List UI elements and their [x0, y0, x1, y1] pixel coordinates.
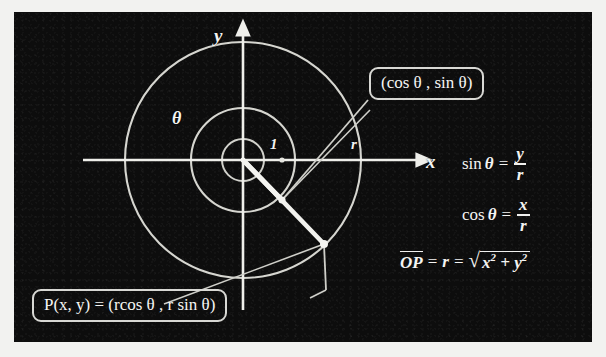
y-axis-label: y: [214, 26, 222, 45]
equation-sine-definition: sin θ = y r: [462, 145, 527, 184]
radicand-y: y: [514, 253, 522, 272]
unit-tick-dot: [279, 157, 284, 162]
square-root-expression: √ x2 + y2: [468, 251, 530, 273]
radicand: x2 + y2: [480, 251, 530, 273]
radicand-y-exponent: 2: [522, 251, 527, 263]
sine-fraction: y r: [513, 145, 527, 184]
radicand-plus-sign: +: [500, 253, 510, 272]
cosine-function-name: cos: [462, 205, 485, 225]
segment-op-label: OP: [400, 251, 423, 273]
radicand-x: x: [482, 253, 491, 272]
callout-unit-circle-point[interactable]: (cos θ , sin θ): [369, 67, 484, 100]
cosine-theta-symbol: θ: [485, 205, 497, 225]
sine-equals-sign: =: [494, 154, 514, 174]
leader-line-point-p: [324, 244, 326, 290]
cosine-denominator: r: [517, 214, 530, 234]
radius-equals-sign-2: =: [449, 252, 469, 272]
radius-equals-sign-1: =: [423, 252, 443, 272]
x-axis-label: x: [426, 152, 436, 171]
radius-symbol: r: [442, 252, 449, 272]
point-p-dot: [320, 240, 328, 248]
diagram-page: y x θ 1 r (cos θ , sin θ) P(x, y) = (rco…: [0, 0, 606, 357]
equation-radius-magnitude: OP = r = √ x2 + y2: [400, 251, 530, 273]
leader-line-point-p-2: [310, 290, 326, 298]
radicand-x-exponent: 2: [491, 251, 496, 263]
sine-function-name: sin: [462, 154, 482, 174]
sine-numerator: y: [513, 145, 527, 163]
chalkboard-panel: y x θ 1 r (cos θ , sin θ) P(x, y) = (rco…: [14, 12, 592, 342]
cosine-fraction: x r: [516, 196, 531, 235]
sine-theta-symbol: θ: [482, 154, 494, 174]
sine-denominator: r: [514, 163, 527, 183]
angle-theta-label: θ: [172, 109, 181, 127]
unit-tick-label: 1: [270, 137, 278, 152]
equation-cosine-definition: cos θ = x r: [462, 196, 531, 235]
radical-sign: √: [468, 251, 480, 273]
radius-tick-label: r: [351, 137, 357, 152]
callout-point-p[interactable]: P(x, y) = (rcos θ , r sin θ): [32, 289, 227, 322]
cosine-numerator: x: [516, 196, 531, 214]
cosine-equals-sign: =: [497, 205, 517, 225]
unit-point-dot: [278, 196, 285, 203]
callout-unit-circle-point-text: (cos θ , sin θ): [381, 73, 472, 93]
callout-point-p-text: P(x, y) = (rcos θ , r sin θ): [44, 295, 215, 315]
